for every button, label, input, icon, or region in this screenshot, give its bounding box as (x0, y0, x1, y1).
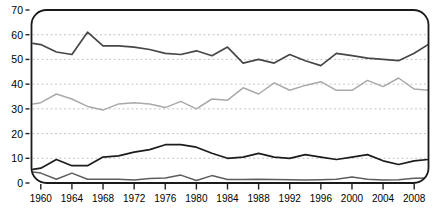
x-tick-label: 2004 (372, 193, 395, 204)
line-chart-panel: 0102030405060701960196419681972197619801… (0, 0, 439, 211)
y-tick-label: 10 (11, 152, 23, 164)
x-tick-label: 1992 (279, 193, 302, 204)
series-3-black-lower (33, 145, 428, 170)
y-tick-label: 60 (11, 29, 23, 41)
x-tick-label: 1996 (310, 193, 333, 204)
x-tick-label: 1968 (92, 193, 115, 204)
x-tick-label: 1964 (61, 193, 84, 204)
y-tick-label: 30 (11, 103, 23, 115)
x-tick-label: 1984 (216, 193, 239, 204)
series-2-light-gray-middle (33, 78, 428, 110)
x-tick-label: 2000 (341, 193, 364, 204)
y-tick-label: 50 (11, 53, 23, 65)
y-tick-label: 70 (11, 4, 23, 16)
x-tick-label: 1988 (247, 193, 270, 204)
y-tick-label: 20 (11, 128, 23, 140)
chart-canvas: 0102030405060701960196419681972197619801… (0, 0, 439, 211)
x-tick-label: 1976 (154, 193, 177, 204)
y-tick-label: 40 (11, 78, 23, 90)
y-tick-label: 0 (17, 177, 23, 189)
series-4-gray-bottom (33, 172, 428, 181)
x-tick-label: 1972 (123, 193, 146, 204)
x-tick-label: 1980 (185, 193, 208, 204)
series-1-dark-gray-upper (33, 32, 428, 65)
x-tick-label: 2008 (403, 193, 426, 204)
x-tick-label: 1960 (30, 193, 53, 204)
